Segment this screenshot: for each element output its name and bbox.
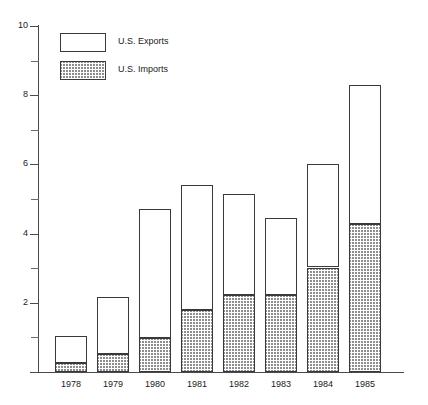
stacked-bar-chart: 246810 19781979198019811982198319841985 … xyxy=(0,0,428,405)
bar-segment-imports-1981 xyxy=(181,310,213,372)
legend-swatch-imports xyxy=(60,61,106,80)
y-tick-major-0 xyxy=(30,372,39,373)
bar-group-1983 xyxy=(265,0,297,405)
y-tick-label-8: 8 xyxy=(8,90,28,99)
x-axis-label-1984: 1984 xyxy=(300,380,346,389)
y-tick-label-10: 10 xyxy=(8,21,28,30)
x-axis-label-1981: 1981 xyxy=(174,380,220,389)
legend-swatch-exports xyxy=(60,33,106,52)
y-tick-minor-1 xyxy=(31,337,39,338)
y-tick-major-8 xyxy=(30,95,39,96)
bar-group-1981 xyxy=(181,0,213,405)
bar-segment-exports-1985 xyxy=(349,85,381,224)
y-tick-label-4: 4 xyxy=(8,229,28,238)
legend-label-exports: U.S. Exports xyxy=(118,37,169,46)
bar-segment-imports-1978 xyxy=(55,363,87,372)
x-axis-label-1979: 1979 xyxy=(90,380,136,389)
y-tick-major-4 xyxy=(30,234,39,235)
bar-group-1984 xyxy=(307,0,339,405)
bar-segment-exports-1984 xyxy=(307,164,339,267)
y-tick-major-10 xyxy=(30,26,39,27)
bar-segment-exports-1981 xyxy=(181,185,213,310)
bar-segment-exports-1983 xyxy=(265,218,297,295)
bar-segment-imports-1979 xyxy=(97,354,129,372)
bar-segment-imports-1985 xyxy=(349,224,381,372)
y-tick-label-6: 6 xyxy=(8,159,28,168)
bar-group-1982 xyxy=(223,0,255,405)
bar-segment-exports-1980 xyxy=(139,209,171,338)
bar-segment-exports-1978 xyxy=(55,336,87,364)
bar-segment-exports-1982 xyxy=(223,194,255,295)
bar-group-1985 xyxy=(349,0,381,405)
bar-group-1980 xyxy=(139,0,171,405)
y-tick-minor-5 xyxy=(31,199,39,200)
y-tick-major-6 xyxy=(30,164,39,165)
bar-segment-imports-1982 xyxy=(223,295,255,372)
bar-segment-imports-1983 xyxy=(265,295,297,372)
x-axis-label-1980: 1980 xyxy=(132,380,178,389)
plot-area: 246810 19781979198019811982198319841985 … xyxy=(0,0,428,405)
bar-segment-imports-1984 xyxy=(307,268,339,372)
legend-label-imports: U.S. Imports xyxy=(118,65,168,74)
x-axis-label-1985: 1985 xyxy=(342,380,388,389)
y-tick-label-2: 2 xyxy=(8,298,28,307)
x-axis-label-1983: 1983 xyxy=(258,380,304,389)
y-tick-major-2 xyxy=(30,303,39,304)
y-tick-minor-7 xyxy=(31,130,39,131)
x-axis-label-1982: 1982 xyxy=(216,380,262,389)
y-tick-minor-9 xyxy=(31,61,39,62)
bar-segment-exports-1979 xyxy=(97,297,129,354)
x-axis-label-1978: 1978 xyxy=(48,380,94,389)
y-tick-minor-3 xyxy=(31,268,39,269)
bar-segment-imports-1980 xyxy=(139,338,171,372)
